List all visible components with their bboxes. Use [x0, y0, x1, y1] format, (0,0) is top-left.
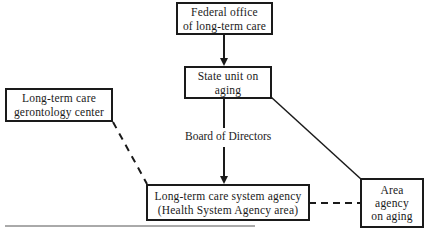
dashed-gerontology-to-agency: [113, 122, 147, 184]
node-label-line: Area: [380, 184, 403, 197]
node-label-line: gerontology center: [14, 105, 104, 119]
line-state-to-area-agency: [271, 97, 362, 180]
node-system-agency: Long-term care system agency (Health Sys…: [146, 184, 310, 221]
node-gerontology-center: Long-term care gerontology center: [5, 88, 113, 122]
node-label-line: (Health System Agency area): [158, 203, 298, 217]
node-label-line: aging: [215, 83, 242, 97]
arrowhead-icon: [220, 58, 228, 66]
node-label-line: Long-term care: [22, 91, 96, 105]
node-label-line: agency: [375, 197, 409, 210]
node-label-line: State unit on: [198, 69, 259, 83]
node-label-line: Federal office: [191, 5, 258, 19]
node-label-line: of long-term care: [183, 19, 266, 33]
node-label-line: on aging: [371, 210, 413, 223]
node-federal-office: Federal office of long-term care: [176, 2, 273, 35]
node-label-line: Long-term care system agency: [154, 189, 301, 203]
node-area-agency: Area agency on aging: [360, 178, 424, 228]
arrowhead-icon: [220, 176, 228, 184]
node-state-unit: State unit on aging: [184, 66, 272, 99]
edge-label-board-of-directors: Board of Directors: [183, 130, 273, 142]
